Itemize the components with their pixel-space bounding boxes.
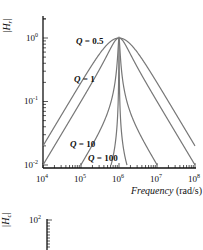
y-axis-title: |Hr|: [1, 19, 14, 34]
x-tick-label-1e6: 106: [112, 173, 124, 184]
x-ticks: [43, 163, 195, 168]
curve-q-100: [111, 38, 127, 165]
y-ticks-bottom: [47, 220, 52, 247]
x-axis-title: Frequency (rad/s): [130, 185, 202, 197]
y-tick-label-1e-1: 10-1: [24, 95, 38, 106]
x-tick-label-1e8: 108: [188, 173, 200, 184]
label-q-0-5: Q = 0.5: [76, 36, 104, 46]
y-tick-label-1e2: 102: [29, 214, 41, 225]
x-tick-label-1e7: 107: [150, 173, 162, 184]
y-tick-label-1e0: 100: [26, 32, 38, 43]
response-curves: [43, 38, 195, 165]
chart-figure: |Hr| 100 10-1 10-2 104 105 106 107 108 F…: [0, 0, 203, 250]
magnitude-chart-top: |Hr| 100 10-1 10-2 104 105 106 107 108 F…: [1, 16, 202, 197]
y-tick-label-1e-2: 10-2: [24, 159, 38, 170]
label-q-100: Q = 100: [88, 153, 118, 163]
x-tick-label-1e4: 104: [36, 173, 48, 184]
label-q-10: Q = 10: [70, 139, 96, 149]
magnitude-chart-bottom: |Hc| 102: [0, 212, 52, 250]
x-tick-label-1e5: 105: [74, 173, 86, 184]
y-ticks: [43, 19, 48, 165]
y-axis-title-bottom: |Hc|: [0, 212, 13, 227]
label-q-1: Q = 1: [74, 74, 95, 84]
